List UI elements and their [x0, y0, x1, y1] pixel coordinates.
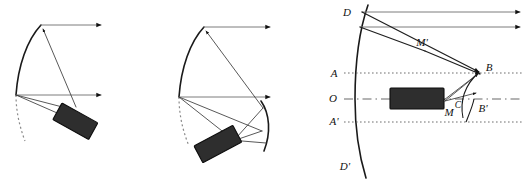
panel-b-mirror-arc [179, 27, 204, 97]
label-point-A: A [330, 67, 338, 79]
label-point-C: C [455, 100, 462, 110]
panel-c-mirror-arc-D-Dprime [355, 5, 368, 178]
panel-a-mirror-dashed-extension [16, 95, 25, 141]
panel-a-receiver [53, 103, 98, 139]
figure-root: D M' B A O M C B' A' D' [0, 0, 525, 184]
label-point-D-prime: D' [339, 160, 351, 172]
panel-a-mirror-arc [16, 25, 41, 95]
panel-b-ray-vertex-to-secondary [179, 97, 262, 131]
panel-b-mirror-dashed-extension [179, 97, 189, 146]
label-point-M: M [443, 106, 454, 118]
panel-c-angle-marker-C [466, 99, 474, 122]
label-point-O: O [329, 92, 337, 104]
label-point-B: B [486, 61, 493, 73]
label-point-M-prime: M' [415, 36, 428, 48]
panel-b-double-reflection [179, 27, 270, 163]
panel-c-ray-Mprime-to-B [425, 51, 480, 74]
panel-b-receiver [194, 125, 242, 162]
panel-c-labelled-geometry: D M' B A O M C B' A' D' [328, 5, 522, 178]
ray-diagram-svg: D M' B A O M C B' A' D' [0, 0, 525, 184]
panel-c-receiver [390, 88, 444, 109]
label-point-B-prime: B' [478, 102, 488, 114]
panel-b-ray-secondary-to-mirror-upper [206, 31, 263, 108]
label-point-A-prime: A' [328, 115, 339, 127]
panel-a-single-reflection [16, 25, 101, 141]
label-point-D: D [342, 6, 351, 18]
